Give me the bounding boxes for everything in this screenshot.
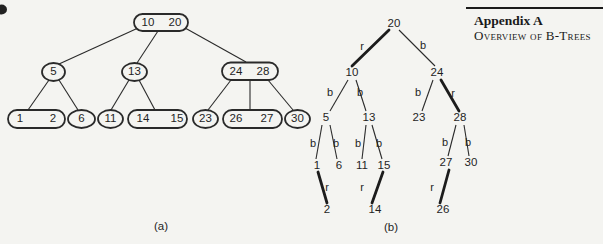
rbtree-node-27: 27 xyxy=(440,157,453,169)
btree-a-edges xyxy=(28,29,293,111)
edge-label-10-13: b xyxy=(357,87,363,98)
caption-a: (a) xyxy=(154,221,168,233)
btree-leaf-30: 30 xyxy=(291,113,304,125)
edge-label-5-6: b xyxy=(333,138,339,149)
edge-label-13-11: b xyxy=(355,138,361,149)
scanned-figure-page: Appendix A Overview of B-Trees 10 20 5 1… xyxy=(0,0,603,244)
btree-node-13: 13 xyxy=(128,66,141,78)
ink-blob xyxy=(0,5,7,15)
btree-leaf-23: 23 xyxy=(199,113,212,125)
rbtree-node-10: 10 xyxy=(346,67,359,79)
btree-leaf-1: 1 xyxy=(17,113,23,125)
rbtree-node-28: 28 xyxy=(454,112,467,124)
rbtree-node-2: 2 xyxy=(324,204,330,216)
btree-leaf-2: 2 xyxy=(50,113,56,125)
btree-leaf-27: 27 xyxy=(261,113,274,125)
btree-leaf-14: 14 xyxy=(137,113,150,125)
btree-leaf-15: 15 xyxy=(171,113,184,125)
btree-leaf-6: 6 xyxy=(78,113,84,125)
appendix-subtitle: Overview of B-Trees xyxy=(474,29,591,43)
rbtree-node-23: 23 xyxy=(413,112,426,124)
btree-node-28: 28 xyxy=(257,66,270,78)
rbtree-node-26: 26 xyxy=(437,204,450,216)
edge-label-1-2: r xyxy=(325,182,329,193)
edge-label-20-10: r xyxy=(360,41,364,52)
btree-node-24: 24 xyxy=(230,66,243,78)
edge-label-13-15: b xyxy=(376,138,382,149)
edge-label-10-5: b xyxy=(327,87,333,98)
rbtree-node-1: 1 xyxy=(314,160,320,172)
btree-root-key-20: 20 xyxy=(169,17,182,29)
edge-label-15-14: r xyxy=(360,182,364,193)
caption-b: (b) xyxy=(384,222,398,234)
edge-label-28-27: b xyxy=(442,137,448,148)
btree-root-key-10: 10 xyxy=(142,17,155,29)
edge-label-20-24: b xyxy=(420,40,426,51)
rbtree-node-30: 30 xyxy=(465,157,478,169)
rbtree-node-24: 24 xyxy=(431,67,444,79)
btree-node-5: 5 xyxy=(50,66,56,78)
rbtree-node-11: 11 xyxy=(356,160,368,172)
rbtree-node-20: 20 xyxy=(388,18,401,30)
rbtree-node-13: 13 xyxy=(363,112,376,124)
rbtree-node-6: 6 xyxy=(336,160,342,172)
rbtree-node-15: 15 xyxy=(378,160,391,172)
rbtree-node-14: 14 xyxy=(369,204,382,216)
appendix-title: Appendix A xyxy=(474,14,543,29)
rbtree-b-edges xyxy=(316,30,469,203)
edge-label-24-28: r xyxy=(451,88,455,99)
btree-leaf-11: 11 xyxy=(105,113,117,125)
edge-label-27-26: r xyxy=(430,182,434,193)
btree-leaf-26: 26 xyxy=(230,113,243,125)
rbtree-node-5: 5 xyxy=(323,112,329,124)
edge-label-5-1: b xyxy=(310,138,316,149)
edge-label-24-23: b xyxy=(415,87,421,98)
edge-label-28-30: b xyxy=(465,137,471,148)
